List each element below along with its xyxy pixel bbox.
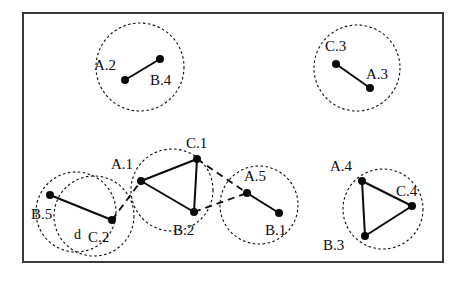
- diagram-frame: [23, 13, 443, 262]
- node-label-A.3: A.3: [366, 66, 388, 82]
- node-label-C.2: C.2: [88, 229, 109, 245]
- node-B.2: [190, 208, 198, 216]
- edge-A.5-B.1: [247, 193, 279, 213]
- node-label-A.1: A.1: [111, 156, 133, 172]
- node-A.2: [121, 76, 129, 84]
- node-C.4: [408, 202, 416, 210]
- edge-C.1-B.2: [194, 159, 197, 212]
- edge-A.4-B.3: [362, 181, 365, 236]
- node-label-A.4: A.4: [330, 158, 353, 174]
- node-label-B.3: B.3: [323, 237, 344, 253]
- edge-B.5-C.2: [50, 195, 112, 220]
- node-label-B.4: B.4: [150, 72, 172, 88]
- distance-d-label: d: [74, 227, 81, 242]
- node-label-C.3: C.3: [325, 38, 346, 54]
- node-A.1: [137, 177, 145, 185]
- node-label-C.1: C.1: [186, 135, 207, 151]
- node-label-A.2: A.2: [94, 57, 116, 73]
- node-A.5: [243, 189, 251, 197]
- frame-layer: [23, 13, 443, 262]
- node-label-B.1: B.1: [265, 222, 286, 238]
- intra-cluster-edges-layer: [50, 59, 412, 236]
- nodes-layer: [46, 55, 416, 240]
- annotation-layer: d: [74, 227, 81, 242]
- node-B.3: [361, 232, 369, 240]
- node-label-B.2: B.2: [173, 222, 194, 238]
- node-label-A.5: A.5: [244, 168, 266, 184]
- node-C.3: [332, 60, 340, 68]
- diagram-canvas: A.2B.4C.3A.3B.5C.2A.1C.1B.2A.5B.1A.4C.4B…: [0, 0, 468, 281]
- edge-A.1-C.1: [141, 159, 197, 181]
- node-A.4: [358, 177, 366, 185]
- edge-C.4-B.3: [365, 206, 412, 236]
- node-B.1: [275, 209, 283, 217]
- node-label-C.4: C.4: [396, 183, 418, 199]
- node-labels-layer: A.2B.4C.3A.3B.5C.2A.1C.1B.2A.5B.1A.4C.4B…: [31, 38, 418, 253]
- node-label-B.5: B.5: [31, 206, 52, 222]
- node-A.3: [366, 84, 374, 92]
- cluster-diagram: A.2B.4C.3A.3B.5C.2A.1C.1B.2A.5B.1A.4C.4B…: [0, 0, 468, 281]
- node-C.2: [108, 216, 116, 224]
- link-C.1-A.5: [197, 159, 247, 193]
- node-B.4: [156, 55, 164, 63]
- link-B.2-A.5: [194, 193, 247, 212]
- edge-C.3-A.3: [336, 64, 370, 88]
- edge-A.1-B.2: [141, 181, 194, 212]
- node-C.1: [193, 155, 201, 163]
- node-B.5: [46, 191, 54, 199]
